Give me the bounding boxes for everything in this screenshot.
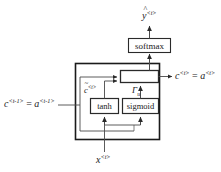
- state-in-a-sup: <t-1>: [39, 97, 54, 104]
- update-gate-label: Γu: [132, 86, 140, 97]
- diagram-wires: [0, 0, 221, 172]
- state-in-c-sup: <t-1>: [8, 97, 23, 104]
- softmax-label: softmax: [128, 38, 171, 53]
- candidate-sup: <t>: [88, 84, 97, 90]
- sigmoid-label: sigmoid: [122, 98, 159, 114]
- gate-subscript: u: [137, 91, 140, 97]
- state-out-c-sup: <t>: [179, 69, 189, 76]
- candidate-label: ~ c <t>: [84, 85, 96, 94]
- tanh-label: tanh: [90, 98, 119, 114]
- input-x-label: x<t>: [96, 154, 111, 165]
- state-out-label: c<t> = a<t>: [175, 70, 215, 81]
- output-prediction-label: ^ y <t>: [142, 10, 157, 21]
- state-in-equals: =: [26, 98, 32, 109]
- state-out-equals: =: [192, 70, 198, 81]
- yhat-sup: <t>: [146, 9, 156, 16]
- state-in-label: c<t-1> = a<t-1>: [4, 98, 55, 109]
- hat-accent: ^: [144, 6, 148, 14]
- gru-cell-diagram: softmax tanh sigmoid ^ y <t> c<t-1> = a<…: [0, 0, 221, 172]
- input-x-sup: <t>: [100, 153, 110, 160]
- combine-box: [121, 71, 159, 83]
- state-out-a-sup: <t>: [205, 69, 215, 76]
- tilde-accent: ~: [85, 80, 89, 87]
